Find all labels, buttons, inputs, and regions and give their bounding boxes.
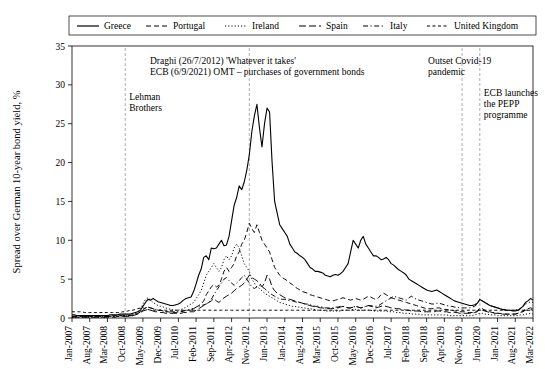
- x-axis: Jan-2007Aug-2007Mar-2008Oct-2008May-2009…: [64, 318, 535, 366]
- x-tick-label: Apr-2012: [224, 326, 234, 363]
- legend-label-ireland: Ireland: [252, 21, 279, 31]
- y-tick-label: 0: [60, 314, 65, 324]
- x-tick-label: May-2016: [348, 326, 358, 366]
- x-tick-label: Mar-2022: [525, 326, 535, 364]
- x-tick-label: Mar-2008: [99, 326, 109, 364]
- x-tick-label: Jul-2017: [383, 326, 393, 360]
- x-tick-label: Oct-2015: [330, 326, 340, 362]
- x-tick-label: May-2009: [135, 326, 145, 366]
- y-tick-label: 10: [56, 236, 66, 246]
- plot-area-border: [72, 46, 533, 318]
- legend-label-united-kingdom: United Kingdom: [454, 21, 519, 31]
- x-tick-label: Dec-2016: [365, 326, 375, 364]
- x-tick-label: Feb-2018: [401, 326, 411, 363]
- annotation-lehman: LehmanBrothers: [129, 92, 162, 113]
- x-tick-label: Aug-2014: [295, 326, 305, 365]
- x-tick-label: Sep-2018: [419, 326, 429, 363]
- y-tick-label: 20: [56, 158, 66, 168]
- x-tick-label: Mar-2015: [312, 326, 322, 364]
- x-tick-label: Jan-2007: [64, 326, 74, 361]
- x-tick-label: Oct-2008: [117, 326, 127, 362]
- spread-over-german-bond-yield-chart: 05101520253035Spread over German 10-year…: [0, 0, 545, 369]
- legend-label-greece: Greece: [104, 21, 131, 31]
- y-axis: 05101520253035Spread over German 10-year…: [11, 42, 72, 324]
- x-tick-label: Feb-2011: [188, 326, 198, 362]
- x-tick-label: Nov-2012: [241, 326, 251, 365]
- chart-figure: 05101520253035Spread over German 10-year…: [0, 0, 545, 369]
- x-tick-label: Jan-2021: [490, 326, 500, 361]
- y-tick-label: 25: [56, 119, 66, 129]
- x-tick-label: Jun-2013: [259, 326, 269, 362]
- x-tick-label: Nov-2019: [454, 326, 464, 365]
- y-tick-label: 15: [56, 197, 66, 207]
- legend: GreecePortugalIrelandSpainItalyUnited Ki…: [69, 16, 536, 35]
- x-tick-label: Apr-2019: [436, 326, 446, 363]
- legend-label-spain: Spain: [326, 21, 348, 31]
- plot-frame: [72, 46, 533, 318]
- y-tick-label: 35: [56, 42, 66, 52]
- y-tick-label: 5: [60, 275, 65, 285]
- x-tick-label: Jun-2020: [472, 326, 482, 362]
- x-tick-label: Sep-2011: [206, 326, 216, 362]
- legend-label-portugal: Portugal: [173, 21, 206, 31]
- y-axis-label: Spread over German 10-year bond yield, %: [11, 90, 22, 273]
- x-tick-label: Dec-2009: [153, 326, 163, 364]
- x-tick-label: Aug-2007: [82, 326, 92, 365]
- legend-label-italy: Italy: [390, 21, 408, 31]
- y-tick-label: 30: [56, 80, 66, 90]
- x-tick-label: Aug-2021: [507, 326, 517, 365]
- x-tick-label: Jul-2010: [170, 326, 180, 360]
- x-tick-label: Jan-2014: [277, 326, 287, 361]
